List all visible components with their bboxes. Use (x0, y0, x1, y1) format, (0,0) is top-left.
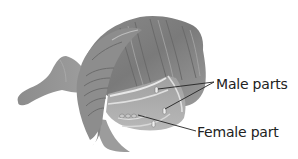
female-part-label: Female part (197, 124, 279, 140)
flower-diagram: Male parts Female part (0, 0, 298, 159)
male-parts-label: Male parts (216, 76, 288, 92)
